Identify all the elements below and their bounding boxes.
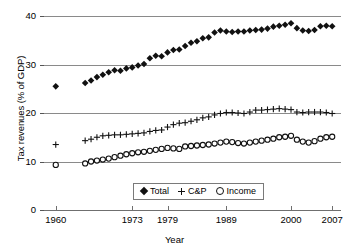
data-point	[135, 62, 142, 69]
data-point	[100, 71, 107, 78]
data-point	[159, 146, 164, 151]
data-point	[135, 130, 141, 136]
data-point	[123, 65, 130, 72]
data-point	[270, 106, 276, 112]
data-point	[283, 134, 288, 139]
data-point	[277, 135, 282, 140]
data-point	[300, 109, 306, 115]
data-point	[247, 27, 254, 34]
data-point	[153, 147, 158, 152]
data-point	[317, 23, 324, 30]
data-point	[265, 137, 270, 142]
data-point	[188, 143, 193, 148]
data-point	[164, 49, 171, 56]
data-point	[182, 43, 189, 50]
data-point	[135, 150, 140, 155]
data-point	[264, 107, 270, 113]
data-point	[152, 52, 159, 59]
data-point	[306, 140, 311, 145]
data-point	[129, 64, 136, 71]
data-point	[118, 153, 123, 158]
data-point	[329, 23, 336, 30]
data-point	[170, 122, 176, 128]
data-point	[94, 74, 101, 81]
data-point	[311, 109, 317, 115]
data-point	[299, 27, 306, 34]
series-income	[53, 133, 335, 167]
data-point	[294, 137, 299, 142]
circle-marker-icon	[216, 187, 224, 195]
data-point	[141, 61, 148, 68]
chart-legend: Total C&P Income	[133, 183, 264, 200]
data-point	[217, 110, 223, 116]
series-total	[52, 20, 335, 90]
data-point	[305, 28, 312, 35]
data-point	[218, 140, 223, 145]
data-point	[194, 117, 200, 123]
data-point	[106, 156, 111, 161]
data-point	[88, 159, 93, 164]
data-point	[253, 107, 259, 113]
data-point	[259, 107, 265, 113]
data-point	[200, 142, 205, 147]
data-point	[282, 106, 288, 112]
data-point	[300, 139, 305, 144]
data-point	[194, 38, 201, 45]
data-point	[270, 23, 277, 30]
data-point	[188, 118, 194, 124]
data-point	[194, 143, 199, 148]
data-point	[183, 144, 188, 149]
legend-label-income: Income	[227, 186, 257, 196]
data-point	[317, 109, 323, 115]
data-point	[276, 106, 282, 112]
legend-item-total[interactable]: Total	[141, 186, 169, 196]
data-point	[259, 138, 264, 143]
data-point	[271, 136, 276, 141]
data-point	[212, 141, 217, 146]
data-point	[111, 132, 117, 138]
data-point	[223, 109, 229, 115]
data-point	[211, 112, 217, 118]
data-point	[176, 46, 183, 53]
data-point	[235, 28, 242, 35]
data-point	[223, 28, 230, 35]
data-point	[112, 155, 117, 160]
data-point	[329, 110, 335, 116]
diamond-marker-icon	[140, 187, 148, 195]
data-point	[294, 25, 301, 32]
data-point	[123, 131, 129, 137]
data-point	[53, 141, 59, 147]
series-cp	[53, 106, 336, 148]
data-point	[253, 139, 258, 144]
data-point	[153, 127, 159, 133]
data-point	[235, 110, 241, 116]
data-point	[53, 162, 58, 167]
data-point	[330, 134, 335, 139]
data-point	[241, 110, 247, 116]
data-point	[282, 21, 289, 28]
data-point	[229, 109, 235, 115]
data-point	[82, 80, 89, 87]
data-point	[205, 34, 212, 41]
data-point	[211, 29, 218, 36]
data-point	[124, 152, 129, 157]
data-point	[117, 68, 124, 75]
data-point	[159, 127, 165, 133]
legend-label-total: Total	[150, 186, 169, 196]
data-point	[52, 83, 59, 90]
legend-item-income[interactable]: Income	[216, 186, 257, 196]
chart-container: Tax revenues (% of GDP) Year 010203040 1…	[0, 0, 349, 252]
data-point	[312, 139, 317, 144]
data-point	[170, 47, 177, 54]
data-point	[141, 149, 146, 154]
data-point	[88, 136, 94, 142]
data-point	[82, 138, 88, 144]
data-point	[224, 139, 229, 144]
data-point	[206, 142, 211, 147]
data-point	[324, 135, 329, 140]
data-point	[217, 27, 224, 34]
data-point	[176, 120, 182, 126]
data-point	[241, 141, 246, 146]
data-point	[294, 109, 300, 115]
legend-item-cp[interactable]: C&P	[178, 186, 207, 196]
